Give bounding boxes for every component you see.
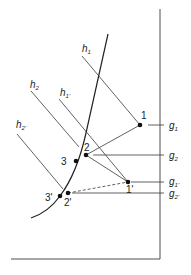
line-h2p xyxy=(17,134,63,189)
line-h1 xyxy=(82,56,140,125)
label-point-1: 1 xyxy=(141,110,147,121)
label-h1: h1 xyxy=(82,43,91,55)
diagram-canvas: h1 h2 h1' h2' g1 g2 g1' g2' 1 2 3 1' 2' … xyxy=(0,0,191,275)
label-point-3: 3 xyxy=(61,156,67,167)
line-h1p xyxy=(59,99,128,182)
label-h2p: h2' xyxy=(16,119,27,131)
label-point-2: 2 xyxy=(84,142,90,153)
label-h1p: h1' xyxy=(60,87,71,99)
label-h2: h2 xyxy=(30,79,40,91)
label-point-2p: 2' xyxy=(64,197,72,208)
label-g1: g1 xyxy=(169,120,178,132)
connector-2p-1p-dashed xyxy=(68,182,128,193)
label-point-1p: 1' xyxy=(126,184,134,195)
point-3 xyxy=(74,159,79,164)
point-2p xyxy=(66,191,71,196)
label-g2: g2 xyxy=(169,150,179,162)
point-2 xyxy=(84,153,89,158)
line-h2 xyxy=(31,91,79,147)
curve xyxy=(31,34,108,218)
point-1 xyxy=(138,123,143,128)
label-g1p: g1' xyxy=(169,176,180,188)
connector-2-1p xyxy=(86,155,128,182)
label-point-3p: 3' xyxy=(45,192,53,203)
point-3p xyxy=(58,194,63,199)
label-g2p: g2' xyxy=(169,188,180,200)
connector-2-1 xyxy=(86,125,140,155)
